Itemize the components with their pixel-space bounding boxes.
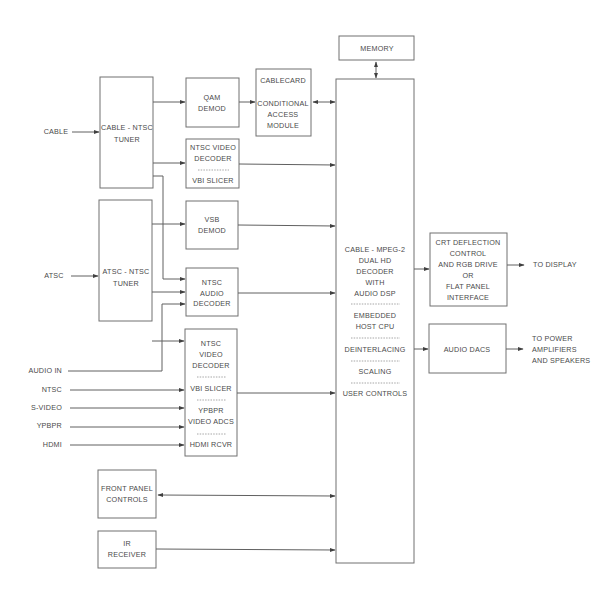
input-label-atsc: ATSC xyxy=(44,271,63,280)
input-label-audio-in: AUDIO IN xyxy=(28,366,62,375)
block-label: NTSC xyxy=(201,339,221,348)
block-label: DEMOD xyxy=(198,226,226,235)
input-label-s-video: S-VIDEO xyxy=(31,403,62,412)
block-label: DECODER xyxy=(193,299,230,308)
block-label: VBI SLICER xyxy=(192,176,234,185)
block-label: AUDIO DACS xyxy=(444,345,491,354)
block-label: VBI SLICER xyxy=(190,384,232,393)
block-label: AUDIO xyxy=(200,289,224,298)
block-label: DECODER xyxy=(192,361,229,370)
block-label: CONDITIONAL xyxy=(257,99,308,108)
block-label: CABLECARD xyxy=(260,76,306,85)
output-label-to-power: TO POWER xyxy=(532,334,573,343)
block-label: AND RGB DRIVE xyxy=(438,260,497,269)
audio-dacs-block: AUDIO DACS xyxy=(429,324,506,373)
block-label: TUNER xyxy=(114,135,140,144)
block-label: MODULE xyxy=(267,121,299,130)
block-label: CONTROL xyxy=(450,249,487,258)
block-label: DEINTERLACING xyxy=(345,345,406,354)
input-label-cable: CABLE xyxy=(44,127,69,136)
block-label: CABLE - MPEG-2 xyxy=(345,245,405,254)
block-label: QAM xyxy=(204,93,221,102)
block-label: WITH xyxy=(365,278,384,287)
block-label: HOST CPU xyxy=(356,322,395,331)
block-label: DECODER xyxy=(356,267,393,276)
block-label: IR xyxy=(123,539,131,548)
block-label: OR xyxy=(462,271,473,280)
block-label: HDMI RCVR xyxy=(190,440,233,449)
block-label: VIDEO xyxy=(199,350,223,359)
block-label: DUAL HD xyxy=(359,256,392,265)
qam-demod-block: QAM DEMOD xyxy=(186,78,239,127)
ntsc-audio-decoder-block: NTSC AUDIO DECODER xyxy=(186,268,238,316)
crt-deflection-block: CRT DEFLECTION CONTROL AND RGB DRIVE OR … xyxy=(430,233,507,306)
block-label: DEMOD xyxy=(198,104,226,113)
block-label: YPBPR xyxy=(198,406,223,415)
block-label: CABLE - NTSC xyxy=(101,123,153,132)
block-label: RECEIVER xyxy=(108,550,146,559)
block-label: CONTROLS xyxy=(106,495,148,504)
block-label: ACCESS xyxy=(268,110,299,119)
block-label: ATSC - NTSC xyxy=(103,267,150,276)
vsb-demod-block: VSB DEMOD xyxy=(186,201,238,249)
memory-block: MEMORY xyxy=(339,36,414,60)
block-label: DECODER xyxy=(194,154,231,163)
output-label-amplifiers: AMPLIFIERS xyxy=(532,345,577,354)
input-label-ypbpr: YPBPR xyxy=(37,421,62,430)
block-label: MEMORY xyxy=(360,44,393,53)
input-label-ntsc: NTSC xyxy=(42,385,62,394)
output-label-speakers: AND SPEAKERS xyxy=(532,356,590,365)
block-diagram: CABLE ATSC AUDIO IN NTSC S-VIDEO YPBPR H… xyxy=(0,0,615,595)
ntsc-video-decoder-multi-block: NTSC VIDEO DECODER VBI SLICER YPBPR VIDE… xyxy=(185,329,237,456)
output-label-to-display: TO DISPLAY xyxy=(533,260,577,269)
ir-receiver-block: IR RECEIVER xyxy=(98,531,156,568)
cablecard-block: CABLECARD CONDITIONAL ACCESS MODULE xyxy=(256,69,311,136)
block-label: USER CONTROLS xyxy=(343,389,408,398)
block-label: VIDEO ADCS xyxy=(188,417,234,426)
main-mpeg2-decoder-block: CABLE - MPEG-2 DUAL HD DECODER WITH AUDI… xyxy=(336,79,414,563)
block-label: EMBEDDED xyxy=(354,311,396,320)
block-label: VSB xyxy=(205,215,220,224)
block-label: TUNER xyxy=(113,279,139,288)
atsc-ntsc-tuner-block: ATSC - NTSC TUNER xyxy=(99,200,152,321)
block-label: CRT DEFLECTION xyxy=(436,238,501,247)
block-label: FLAT PANEL xyxy=(446,282,490,291)
cable-ntsc-tuner-block: CABLE - NTSC TUNER xyxy=(100,77,153,188)
block-label: INTERFACE xyxy=(447,293,489,302)
front-panel-controls-block: FRONT PANEL CONTROLS xyxy=(98,470,156,518)
input-label-hdmi: HDMI xyxy=(43,440,62,449)
ntsc-video-decoder-vbi-block: NTSC VIDEO DECODER VBI SLICER xyxy=(186,139,239,188)
block-label: NTSC VIDEO xyxy=(190,143,236,152)
block-label: SCALING xyxy=(359,367,392,376)
block-label: NTSC xyxy=(202,278,222,287)
block-label: FRONT PANEL xyxy=(101,484,153,493)
block-label: AUDIO DSP xyxy=(354,289,395,298)
